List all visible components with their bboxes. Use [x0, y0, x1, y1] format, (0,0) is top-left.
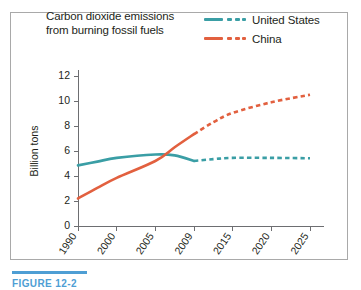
y-axis: 024681012 [58, 69, 78, 231]
y-tick-label: 10 [58, 94, 70, 106]
x-tick-label: 2009 [172, 230, 195, 256]
x-tick-label: 1990 [56, 230, 79, 256]
y-axis-title: Billion tons [28, 126, 40, 177]
y-tick-label: 6 [64, 144, 70, 156]
x-axis: 1990200020052009201520202025 [56, 226, 324, 256]
series-line-china-projected [194, 95, 310, 134]
y-tick-label: 12 [58, 69, 70, 81]
x-tick-label: 2025 [288, 230, 311, 256]
x-tick-label: 2020 [249, 230, 272, 256]
x-tick-label: 2000 [94, 230, 117, 256]
figure-caption-label: FIGURE 12-2 [12, 278, 77, 290]
plot-area: 024681012 1990200020052009201520202025 B… [10, 12, 348, 260]
series-line-united-states-projected [194, 158, 310, 161]
series-group [78, 95, 310, 199]
y-tick-label: 2 [64, 194, 70, 206]
y-tick-label: 8 [64, 119, 70, 131]
x-tick-label: 2005 [133, 230, 156, 256]
caption-rule [12, 271, 87, 274]
figure-container: Carbon dioxide emissions from burning fo… [0, 0, 361, 290]
x-tick-label: 2015 [210, 230, 233, 256]
series-line-china-observed [78, 134, 194, 198]
chart-svg: 024681012 1990200020052009201520202025 B… [10, 12, 348, 260]
series-line-united-states-observed [78, 154, 194, 165]
y-tick-label: 0 [64, 219, 70, 231]
y-tick-label: 4 [64, 169, 70, 181]
